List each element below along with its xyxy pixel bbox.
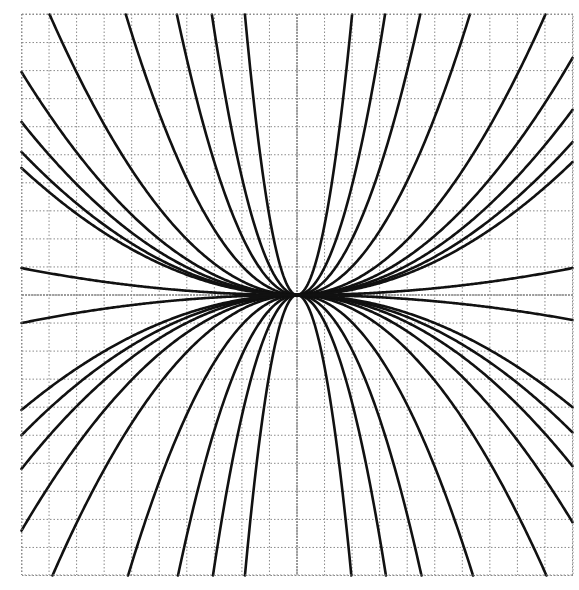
phase-portrait-chart — [0, 0, 579, 590]
